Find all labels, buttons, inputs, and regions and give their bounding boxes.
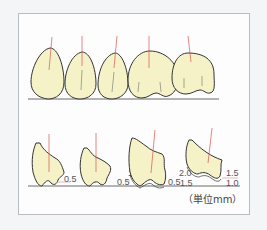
svg-text:1.5: 1.5 [226,168,239,178]
top-tooth-2 [65,36,96,99]
bottom-tooth-4: 2.0 1.5 1.5 1.0 [179,128,239,188]
top-tooth-5 [172,36,214,94]
top-tooth-1 [31,37,64,99]
top-tooth-3 [98,36,128,99]
tooth-diagram: 0.5 1.0 0.5 0.5 2.0 1.5 1.5 1.0 （単位mm） [0,0,267,230]
svg-text:1.0: 1.0 [226,178,239,188]
svg-text:2.0: 2.0 [179,168,192,178]
bottom-tooth-3: 0.5 [125,130,181,188]
svg-text:0.5: 0.5 [168,177,181,187]
svg-text:0.5: 0.5 [117,177,130,187]
svg-text:1.5: 1.5 [180,178,193,188]
top-tooth-4 [128,36,178,98]
unit-label: （単位mm） [183,193,242,205]
bottom-tooth-1: 0.5 [32,134,76,186]
svg-text:0.5: 0.5 [64,174,77,184]
